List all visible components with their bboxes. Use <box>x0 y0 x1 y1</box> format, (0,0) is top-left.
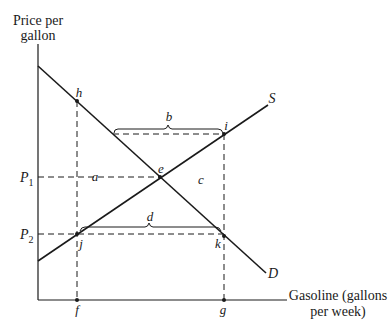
label-k: k <box>215 236 221 251</box>
label-i: i <box>224 118 228 133</box>
brace-d <box>80 223 221 231</box>
label-g: g <box>220 302 227 317</box>
label-j: j <box>77 236 83 251</box>
area-label-b: b <box>166 109 173 124</box>
y-axis-label-line1: Price per <box>13 13 63 28</box>
label-e: e <box>158 161 164 176</box>
supply-curve <box>38 105 268 261</box>
brace-b <box>114 125 223 133</box>
p2-main: P <box>19 227 29 242</box>
price-label-p1: P1 <box>19 170 34 188</box>
y-axis-label-line2: gallon <box>21 28 56 43</box>
area-label-c: c <box>198 172 204 187</box>
guide-lines <box>38 101 224 300</box>
label-h: h <box>76 85 83 100</box>
x-axis-label-line2: per week) <box>310 304 366 320</box>
demand-label: D <box>267 266 278 281</box>
supply-demand-diagram: Price per gallon Gasoline (gallons per w… <box>0 0 392 336</box>
p2-sub: 2 <box>29 234 34 245</box>
point-k <box>222 234 226 238</box>
demand-curve <box>38 66 266 273</box>
supply-label: S <box>269 91 276 106</box>
p1-sub: 1 <box>29 177 34 188</box>
area-label-d: d <box>147 209 154 224</box>
p1-main: P <box>19 170 29 185</box>
label-f: f <box>75 302 81 317</box>
price-label-p2: P2 <box>19 227 34 245</box>
x-axis-label-line1: Gasoline (gallons <box>289 288 387 304</box>
area-label-a: a <box>92 169 99 184</box>
